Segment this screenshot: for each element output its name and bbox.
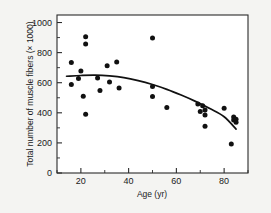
data-point (69, 60, 74, 65)
y-tick-label: 200 (37, 138, 52, 148)
data-point (117, 85, 122, 90)
y-axis-title: Total number of muscle fibers (× 1000) (25, 21, 35, 166)
data-point (222, 106, 227, 111)
data-point (150, 36, 155, 41)
data-point (114, 59, 119, 64)
data-point (78, 68, 83, 73)
data-point (200, 103, 205, 108)
data-point (107, 80, 112, 85)
y-tick-label: 600 (37, 78, 52, 88)
data-point (69, 82, 74, 87)
data-point (203, 108, 208, 113)
figure-container: 20406080 02004006008001000 Age (yr) Tota… (0, 0, 271, 213)
x-tick-label: 60 (171, 176, 181, 186)
data-point (83, 41, 88, 46)
data-point (195, 102, 200, 107)
data-point (234, 120, 239, 125)
data-point (83, 34, 88, 39)
data-point (198, 109, 203, 114)
data-point (81, 94, 86, 99)
data-point (150, 84, 155, 89)
data-point (229, 142, 234, 147)
data-point (83, 112, 88, 117)
data-point (97, 88, 102, 93)
data-point (203, 113, 208, 118)
data-point (76, 76, 81, 81)
scatter-chart: 20406080 02004006008001000 Age (yr) Tota… (0, 0, 271, 213)
x-tick-label: 20 (76, 176, 86, 186)
x-axis-title: Age (yr) (137, 189, 167, 199)
data-point (164, 105, 169, 110)
data-point (95, 75, 100, 80)
y-tick-label: 800 (37, 48, 52, 58)
data-point (203, 124, 208, 129)
y-tick-label: 400 (37, 108, 52, 118)
x-tick-label: 40 (124, 176, 134, 186)
data-point (105, 63, 110, 68)
x-tick-label: 80 (219, 176, 229, 186)
y-tick-label: 0 (47, 168, 52, 178)
data-point (150, 94, 155, 99)
